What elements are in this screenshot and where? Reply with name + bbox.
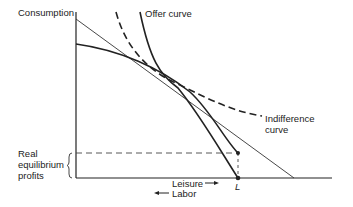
endowment-point-top xyxy=(236,151,240,155)
point-L-label: L xyxy=(235,181,240,192)
y-axis-label: Consumption xyxy=(18,7,74,18)
indifference-label-line2: curve xyxy=(265,124,288,135)
profits-brace xyxy=(67,153,72,178)
profits-label-line2: equilibrium xyxy=(18,159,64,170)
indifference-label-line1: Indifference xyxy=(265,113,314,124)
profits-label-line1: Real xyxy=(18,148,38,159)
diagram-canvas xyxy=(0,0,353,207)
production-curve xyxy=(76,44,238,153)
endowment-point-L xyxy=(236,176,241,181)
offer-curve-label: Offer curve xyxy=(145,8,192,19)
leisure-arrow-head xyxy=(214,181,219,185)
profits-label-line3: profits xyxy=(18,170,44,181)
labor-arrow-head xyxy=(154,191,159,195)
labor-label: Labor xyxy=(172,188,196,199)
budget-line xyxy=(76,19,294,178)
